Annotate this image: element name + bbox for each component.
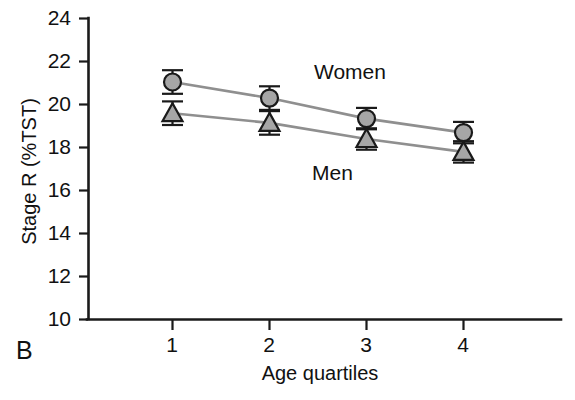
- figure-panel-b: 24 22 20 18 16 14 12 10 1 2 3 4 Stage R …: [0, 0, 575, 400]
- x-tick-label-3: 3: [351, 334, 381, 355]
- y-axis-ticks: [79, 19, 88, 320]
- y-tick-label-24: 24: [27, 7, 71, 28]
- trend-line-men: [173, 113, 464, 152]
- data-point-women-q1: [164, 74, 181, 91]
- y-tick-label-10: 10: [27, 308, 71, 329]
- y-axis-label: Stage R (%TST): [18, 57, 41, 287]
- data-point-women-q2: [261, 90, 278, 107]
- data-point-women-q3: [358, 110, 375, 127]
- x-tick-label-4: 4: [448, 334, 478, 355]
- x-tick-label-2: 2: [254, 334, 284, 355]
- data-point-women-q4: [455, 124, 472, 141]
- x-axis-ticks: [173, 320, 464, 330]
- x-tick-label-1: 1: [157, 334, 187, 355]
- series-label-women: Women: [314, 60, 386, 84]
- trend-line-women: [173, 82, 464, 133]
- series-label-men: Men: [312, 161, 353, 185]
- data-point-men-q1: [163, 103, 183, 121]
- panel-label: B: [16, 336, 33, 365]
- x-axis-label: Age quartiles: [185, 362, 455, 385]
- chart-canvas: [0, 0, 575, 400]
